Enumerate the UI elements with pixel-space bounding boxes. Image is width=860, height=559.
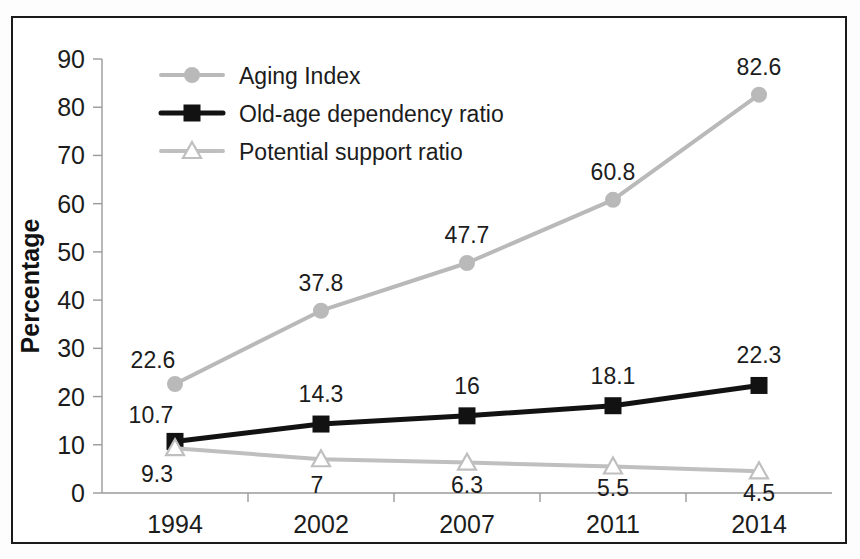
x-tick-label: 2007	[439, 510, 495, 538]
data-point-label: 7	[311, 472, 324, 498]
data-point-label: 10.7	[129, 402, 174, 428]
y-tick-label: 70	[57, 141, 85, 169]
data-point-label: 22.3	[737, 342, 782, 368]
data-point-marker	[168, 377, 182, 391]
data-point-marker	[314, 417, 329, 432]
series-potential-support-ratio: 9.376.35.54.5	[141, 439, 775, 506]
data-point-marker	[606, 193, 620, 207]
data-point-label: 37.8	[299, 270, 344, 296]
legend-marker-square-icon	[185, 106, 200, 121]
data-point-label: 6.3	[451, 472, 483, 498]
data-point-marker	[606, 398, 621, 413]
legend-item[interactable]: Old-age dependency ratio	[161, 101, 504, 127]
legend-item-label: Old-age dependency ratio	[239, 101, 504, 127]
x-axis-ticks: 19942002200720112014	[147, 493, 787, 538]
data-point-label: 22.6	[131, 347, 176, 373]
data-point-label: 14.3	[299, 381, 344, 407]
x-tick-label: 1994	[147, 510, 203, 538]
chart-page: 0102030405060708090Percentage19942002200…	[0, 0, 860, 559]
x-tick-label: 2011	[586, 510, 640, 538]
data-point-marker	[752, 378, 767, 393]
data-point-label: 16	[454, 373, 480, 399]
data-point-label: 18.1	[591, 363, 636, 389]
y-tick-label: 40	[57, 286, 85, 314]
data-point-marker	[460, 408, 475, 423]
data-point-marker	[314, 304, 328, 318]
x-tick-label: 2014	[731, 510, 787, 538]
y-tick-label: 90	[57, 45, 85, 73]
y-tick-label: 10	[57, 431, 85, 459]
y-tick-label: 20	[57, 383, 85, 411]
y-tick-label: 50	[57, 238, 85, 266]
data-point-label: 5.5	[597, 475, 629, 501]
legend-item-label: Aging Index	[239, 63, 361, 89]
chart-frame: 0102030405060708090Percentage19942002200…	[11, 16, 847, 544]
legend-item[interactable]: Aging Index	[161, 63, 361, 89]
y-tick-label: 30	[57, 334, 85, 362]
y-axis-title: Percentage	[16, 219, 44, 354]
y-tick-label: 60	[57, 190, 85, 218]
legend-item[interactable]: Potential support ratio	[161, 139, 463, 165]
data-point-label: 47.7	[445, 222, 490, 248]
data-point-marker	[752, 88, 766, 102]
data-point-label: 82.6	[737, 54, 782, 80]
data-point-label: 4.5	[743, 480, 775, 506]
y-tick-label: 80	[57, 93, 85, 121]
line-chart: 0102030405060708090Percentage19942002200…	[13, 18, 849, 546]
legend: Aging IndexOld-age dependency ratioPoten…	[161, 63, 504, 165]
data-point-marker	[460, 256, 474, 270]
data-point-label: 9.3	[141, 461, 173, 487]
legend-item-label: Potential support ratio	[239, 139, 463, 165]
legend-marker-circle-icon	[185, 68, 199, 82]
data-point-label: 60.8	[591, 159, 636, 185]
x-tick-label: 2002	[293, 510, 349, 538]
y-axis-ticks: 0102030405060708090	[57, 45, 102, 507]
y-tick-label: 0	[71, 479, 85, 507]
